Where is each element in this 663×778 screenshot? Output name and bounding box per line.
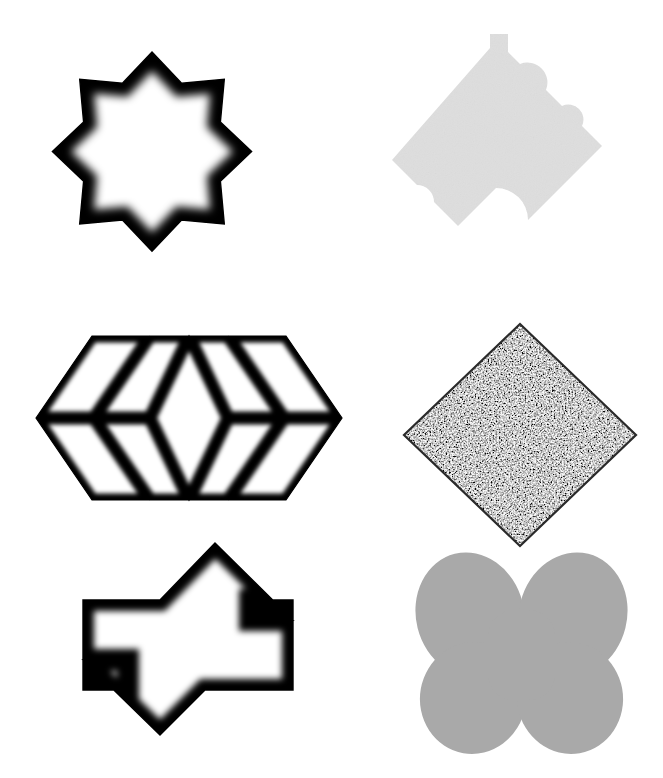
shape-notched-puzzle-diamond: Rotated square with circular notches xyxy=(350,0,650,300)
shape-gallery-canvas: Eight-pointed star outline Rotated squar… xyxy=(0,0,663,778)
clover-petals xyxy=(402,541,640,763)
noise-rhombus-texture xyxy=(404,324,636,546)
hexagon-outline-group xyxy=(36,336,342,500)
compound-polygon-group xyxy=(83,543,293,735)
shape-eight-pointed-star: Eight-pointed star outline xyxy=(0,0,300,300)
shape-four-petal-clover: Four-petal clover / butterfly silhouette xyxy=(380,520,663,778)
shape-compound-arrow-polygon: Compound polygon of rectangle and rotate… xyxy=(0,520,340,778)
hex-center-diamond-edge xyxy=(150,336,228,500)
star-stroke-path xyxy=(52,52,251,251)
clover-group xyxy=(402,541,640,763)
noise-rhombus-group xyxy=(404,324,636,546)
shape-rhombus-tiled-hexagon: Elongated hexagon subdivided into rhombi xyxy=(0,300,380,520)
hex-center-diamond xyxy=(150,336,228,500)
compound-edge-path xyxy=(83,543,293,735)
diamond-fill-group xyxy=(392,34,602,226)
clover-core xyxy=(488,610,555,700)
star-outline-group xyxy=(52,52,251,251)
notched-diamond-path xyxy=(392,34,602,226)
